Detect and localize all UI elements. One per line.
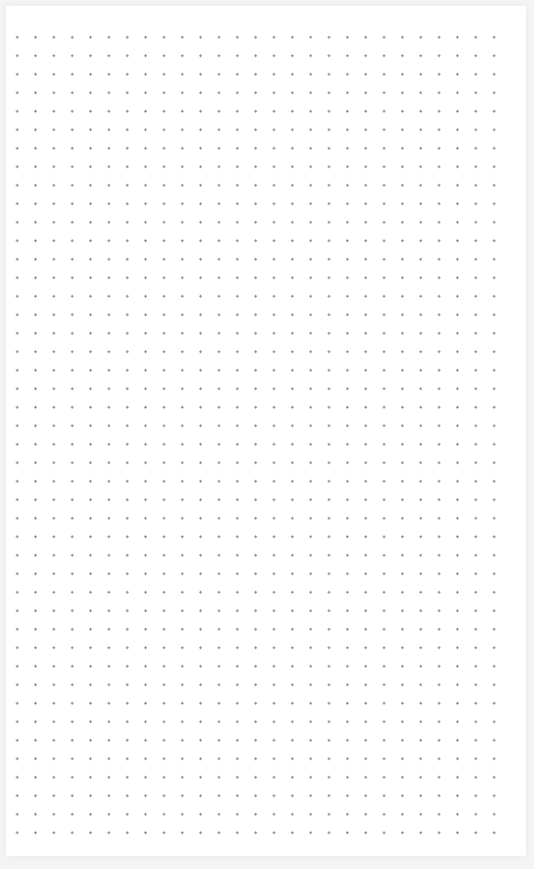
dot-grid-sheet [6, 6, 526, 856]
dot-grid-pattern [8, 28, 505, 842]
